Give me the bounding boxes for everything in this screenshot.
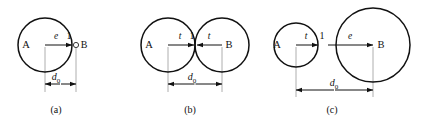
contact-label-1: 1 [320,30,325,41]
panel-caption-2: (b) [184,104,196,116]
dimension-d0-label: d0 [52,71,61,85]
gap-arrow-e-label: e [348,31,352,41]
figure-root: ABe1d0(a)ABtt1d0(b)ABte1d0(c) [0,0,425,121]
dimension-d0-label: d0 [188,71,197,85]
circle-a-label: A [273,39,281,50]
dimension-d0-label: d0 [330,77,339,91]
contact-label-1: 1 [190,30,195,41]
circle-a-label: A [22,39,30,50]
gap-arrow-e-label: e [54,31,58,41]
contact-label-1: 1 [67,30,72,41]
gap-arrow-t-label: t [305,31,308,41]
three-panel-circle-diagram: ABe1d0(a)ABtt1d0(b)ABte1d0(c) [0,0,425,121]
panel-1: ABe1d0(a) [18,18,88,116]
circle-a-label: A [145,39,153,50]
node-label-b: B [81,39,88,50]
circle-b-label: B [377,39,384,50]
gap-arrow-t-right-label: t [208,31,211,41]
panel-caption-1: (a) [50,104,61,116]
circle-b-label: B [225,39,232,50]
panel-3: ABte1d0(c) [273,8,410,116]
panel-caption-3: (c) [326,104,337,116]
point-b [73,42,78,47]
gap-arrow-t-left-label: t [179,31,182,41]
panel-2: ABtt1d0(b) [141,18,249,116]
